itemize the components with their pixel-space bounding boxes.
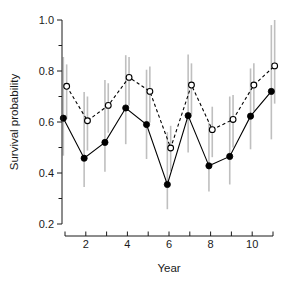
- y-axis: 0.20.40.60.81.0: [39, 14, 62, 230]
- data-point-filled: [268, 88, 274, 94]
- data-point-open: [105, 103, 111, 109]
- data-point-open: [126, 74, 132, 80]
- data-point-open: [168, 145, 174, 151]
- data-point-open: [85, 118, 91, 124]
- data-point-open: [64, 83, 70, 89]
- data-lines-layer: [63, 66, 274, 185]
- data-point-open: [251, 82, 257, 88]
- y-axis-tick-label: 0.2: [39, 218, 54, 230]
- x-axis-tick-label: 2: [83, 238, 89, 250]
- data-point-open: [147, 89, 153, 95]
- data-point-filled: [81, 155, 87, 161]
- data-point-filled: [185, 113, 191, 119]
- x-axis-tick-label: 8: [208, 238, 214, 250]
- data-point-filled: [206, 163, 212, 169]
- y-axis-title: Survival probability: [8, 73, 20, 170]
- data-point-filled: [102, 139, 108, 145]
- x-axis-title: Year: [157, 262, 180, 274]
- x-axis-tick-label: 4: [124, 238, 130, 250]
- data-point-open: [230, 117, 236, 123]
- y-axis-tick-label: 0.6: [39, 116, 54, 128]
- data-point-open: [209, 127, 215, 133]
- y-axis-tick-label: 1.0: [39, 14, 54, 26]
- data-point-filled: [227, 153, 233, 159]
- data-markers-layer: [60, 63, 277, 188]
- data-point-open: [272, 63, 278, 69]
- data-point-filled: [60, 115, 66, 121]
- y-axis-tick-label: 0.4: [39, 167, 54, 179]
- y-axis-tick-label: 0.8: [39, 65, 54, 77]
- x-axis: 246810: [65, 232, 273, 251]
- x-axis-tick-label: 10: [246, 238, 258, 250]
- data-point-open: [189, 82, 195, 88]
- survival-probability-plot: 0.20.40.60.81.0 246810 Survival probabil…: [0, 0, 295, 286]
- data-point-filled: [247, 113, 253, 119]
- data-point-filled: [164, 181, 170, 187]
- x-axis-tick-label: 6: [166, 238, 172, 250]
- data-point-filled: [123, 105, 129, 111]
- chart-figure: 0.20.40.60.81.0 246810 Survival probabil…: [0, 0, 295, 286]
- data-point-filled: [143, 121, 149, 127]
